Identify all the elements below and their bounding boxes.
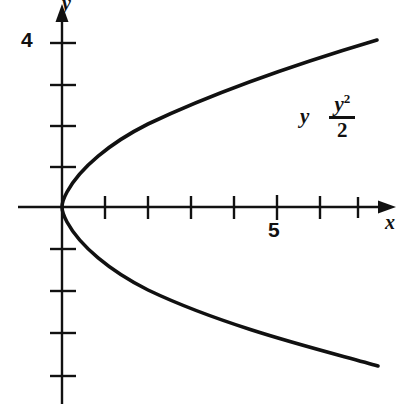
y-axis-label: y	[62, 0, 71, 13]
fraction-denominator: 2	[337, 119, 348, 141]
y-axis-tick-label-4: 4	[21, 29, 33, 50]
parabola-curve	[62, 40, 378, 366]
parabola-figure: 4 5 y x y = y2 2	[0, 0, 398, 409]
equation-annotation: y = y2 2	[300, 92, 355, 141]
x-axis-tick-label-5: 5	[268, 219, 280, 240]
equation-left-side: y	[300, 106, 309, 127]
equation-fraction: y2 2	[329, 92, 355, 141]
x-axis-label: x	[385, 212, 395, 232]
plot-canvas	[0, 0, 398, 409]
fraction-numerator: y2	[331, 92, 353, 116]
fraction-numerator-exponent: 2	[344, 91, 351, 106]
fraction-numerator-base: y	[334, 92, 343, 116]
equation-equals-sign: =	[309, 104, 329, 129]
